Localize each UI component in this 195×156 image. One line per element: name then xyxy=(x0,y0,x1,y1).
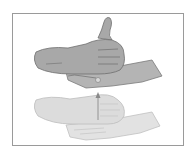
sign-illustration xyxy=(0,0,195,156)
end-position-hands xyxy=(34,18,162,89)
start-position-hands xyxy=(34,95,160,140)
